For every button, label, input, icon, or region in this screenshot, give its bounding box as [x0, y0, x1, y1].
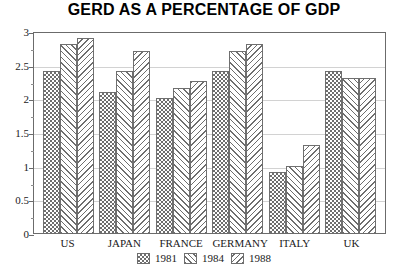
bar-us-1984	[60, 44, 77, 233]
legend-label-1984: 1984	[202, 252, 224, 264]
bar-uk-1984	[342, 78, 359, 233]
bar-germany-1981	[212, 71, 229, 233]
legend-swatch-1988	[231, 253, 244, 264]
x-axis-label-italy: ITALY	[269, 236, 320, 250]
bar-us-1988	[77, 38, 94, 233]
legend-swatch-1984	[184, 253, 197, 264]
bar-france-1988	[190, 81, 207, 233]
legend-label-1988: 1988	[249, 252, 271, 264]
bar-japan-1981	[99, 92, 116, 233]
bar-germany-1988	[246, 44, 263, 233]
y-axis-tick-label: 3	[24, 26, 30, 38]
x-axis-labels: USJAPANFRANCEGERMANYITALYUK	[33, 236, 386, 250]
y-axis-tick-label: 0	[24, 228, 30, 240]
chart-title: GERD AS A PERCENTAGE OF GDP	[0, 1, 408, 19]
legend-label-1981: 1981	[155, 252, 177, 264]
legend-item-1981: 1981	[137, 252, 177, 264]
legend-item-1988: 1988	[231, 252, 271, 264]
x-axis-label-france: FRANCE	[156, 236, 207, 250]
bar-chart: GERD AS A PERCENTAGE OF GDP 00.511.522.5…	[0, 0, 408, 271]
legend-swatch-1981	[137, 253, 150, 264]
plot-area	[33, 32, 386, 234]
bar-france-1981	[156, 98, 173, 233]
x-axis-label-uk: UK	[326, 236, 377, 250]
bar-groups	[34, 33, 385, 233]
bar-uk-1988	[359, 78, 376, 233]
y-axis-labels: 00.511.522.53	[0, 32, 29, 234]
bar-group	[156, 33, 207, 233]
bar-group	[43, 33, 94, 233]
x-axis-label-us: US	[42, 236, 93, 250]
y-axis-tick-label: 0.5	[15, 194, 29, 206]
bar-group	[212, 33, 263, 233]
bar-italy-1988	[303, 145, 320, 233]
bar-france-1984	[173, 88, 190, 233]
legend-item-1984: 1984	[184, 252, 224, 264]
y-axis-tick-label: 1.5	[15, 127, 29, 139]
bar-group	[325, 33, 376, 233]
bar-italy-1984	[286, 166, 303, 233]
y-axis-tick-label: 2.5	[15, 60, 29, 72]
bar-italy-1981	[269, 172, 286, 233]
y-axis-tick-label: 2	[24, 93, 30, 105]
bar-group	[99, 33, 150, 233]
bar-germany-1984	[229, 51, 246, 233]
bar-uk-1981	[325, 71, 342, 233]
bar-japan-1988	[133, 51, 150, 233]
y-axis-tick-label: 1	[24, 161, 30, 173]
bar-us-1981	[43, 71, 60, 233]
bar-group	[269, 33, 320, 233]
bar-japan-1984	[116, 71, 133, 233]
x-axis-label-japan: JAPAN	[99, 236, 150, 250]
chart-legend: 198119841988	[0, 252, 408, 264]
x-axis-label-germany: GERMANY	[212, 236, 263, 250]
